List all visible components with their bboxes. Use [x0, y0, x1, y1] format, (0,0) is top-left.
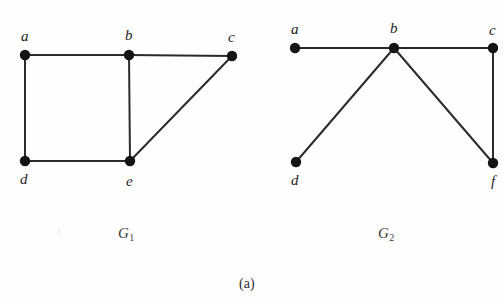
vertex-label-g2-c: c: [489, 23, 496, 38]
vertex-label-g2-f: f: [491, 174, 495, 189]
vertex-label-g1-a: a: [21, 29, 29, 44]
figure-caption: (a): [239, 277, 255, 291]
graph-edge-g1-be: [129, 55, 130, 161]
vertex-label-g2-b: b: [390, 21, 398, 36]
edges-layer: [25, 48, 493, 163]
graph-vertex-g1-e: [125, 156, 135, 166]
graph-vertex-g2-a: [290, 43, 300, 53]
graph-vertex-g1-c: [227, 51, 237, 61]
graph-vertex-g1-d: [20, 156, 30, 166]
graph-vertex-g2-c: [488, 43, 498, 53]
graph-vertex-g2-f: [488, 158, 498, 168]
graph-name-g1: G1: [118, 226, 134, 243]
graph-name-g2: G2: [378, 226, 394, 243]
figure-container: abcdeabcdf G1 G2 (a): [0, 0, 503, 301]
vertex-label-g2-d: d: [291, 173, 299, 188]
graph-vertex-g1-b: [124, 50, 134, 60]
graph-vertex-g1-a: [20, 50, 30, 60]
graph-vertex-g2-d: [291, 157, 301, 167]
graph-edge-g1-ec: [130, 56, 232, 161]
vertex-label-g1-d: d: [20, 172, 28, 187]
vertex-label-g1-e: e: [126, 174, 133, 189]
scan-artifact: [58, 229, 60, 234]
vertex-label-g1-b: b: [125, 28, 133, 43]
graph-canvas: [0, 0, 503, 301]
vertices-layer: [20, 43, 498, 168]
graph-edge-g2-bf: [394, 48, 493, 163]
graph-vertex-g2-b: [389, 43, 399, 53]
vertex-label-g2-a: a: [291, 22, 299, 37]
graph-edge-g1-bc: [129, 55, 232, 56]
vertex-label-g1-c: c: [228, 30, 235, 45]
graph-edge-g2-bd: [296, 48, 394, 162]
